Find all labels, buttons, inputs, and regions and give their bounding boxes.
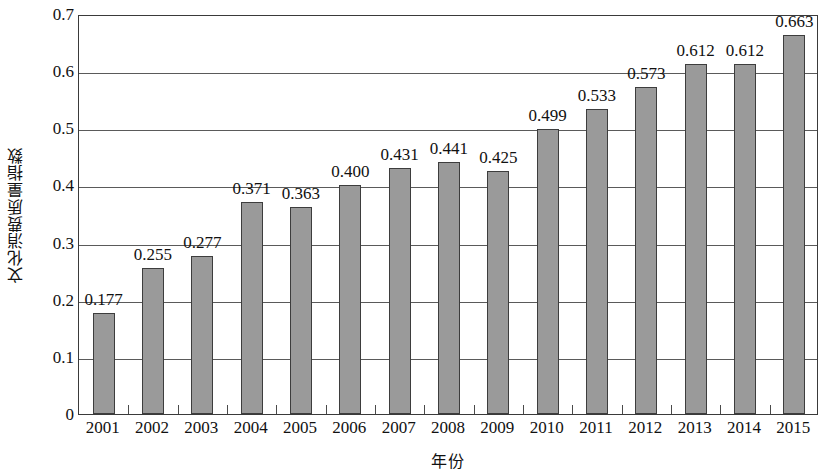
x-tick-label: 2003 [184,418,218,438]
bar [389,168,411,414]
x-tick-label: 2005 [283,418,317,438]
bar-value-label: 0.441 [430,139,468,159]
y-axis-tick-labels: 00.10.20.30.40.50.60.7 [28,0,74,475]
y-axis-title-text: 文化消费质量指数 [5,147,29,283]
bar-group: 0.573 [622,16,671,414]
bar-value-label: 0.663 [775,12,813,32]
bar-value-label: 0.371 [233,179,271,199]
bar [142,268,164,414]
x-axis-title: 年份 [78,448,818,472]
bar-group: 0.177 [79,16,128,414]
bar-group: 0.663 [770,16,819,414]
x-tick-label: 2013 [678,418,712,438]
bar-group: 0.431 [375,16,424,414]
bar-value-label: 0.431 [381,145,419,165]
x-tick-label: 2010 [530,418,564,438]
y-tick-label: 0.1 [32,348,74,368]
bar-value-label: 0.400 [331,162,369,182]
x-tick-label: 2008 [431,418,465,438]
y-tick-label: 0.3 [32,234,74,254]
bar [191,256,213,414]
bar [537,129,559,414]
bar-group: 0.425 [474,16,523,414]
bar-value-label: 0.425 [479,148,517,168]
y-tick-label: 0.5 [32,119,74,139]
bar [586,109,608,414]
y-tick-label: 0.7 [32,5,74,25]
bar [93,313,115,414]
bar-group: 0.612 [720,16,769,414]
bar-group: 0.371 [227,16,276,414]
bar-group: 0.277 [178,16,227,414]
y-tick-label: 0.6 [32,62,74,82]
bar [438,162,460,414]
bars-layer: 0.1770.2550.2770.3710.3630.4000.4310.441… [79,16,817,414]
x-tick-label: 2001 [86,418,120,438]
bar-group: 0.499 [523,16,572,414]
bar-group: 0.255 [128,16,177,414]
x-tick-label: 2007 [382,418,416,438]
x-axis-tick-labels: 2001200220032004200520062007200820092010… [78,418,818,444]
bar-value-label: 0.177 [85,290,123,310]
plot-area: 0.1770.2550.2770.3710.3630.4000.4310.441… [78,15,818,415]
bar-chart: 文化消费质量指数 00.10.20.30.40.50.60.7 0.1770.2… [0,0,821,475]
bar-value-label: 0.499 [529,106,567,126]
bar-value-label: 0.533 [578,86,616,106]
bar-value-label: 0.612 [726,41,764,61]
x-tick-label: 2004 [234,418,268,438]
bar-group: 0.400 [326,16,375,414]
bar-value-label: 0.612 [677,41,715,61]
x-tick-label: 2006 [332,418,366,438]
bar-group: 0.612 [671,16,720,414]
bar-group: 0.441 [424,16,473,414]
y-tick-label: 0.2 [32,291,74,311]
bar [290,207,312,414]
bar [339,185,361,414]
bar [783,35,805,414]
bar-value-label: 0.573 [627,64,665,84]
bar [241,202,263,414]
bar [685,64,707,414]
bar-value-label: 0.363 [282,184,320,204]
x-tick-label: 2012 [628,418,662,438]
y-tick-label: 0 [32,405,74,425]
bar-group: 0.363 [276,16,325,414]
x-tick-label: 2011 [579,418,612,438]
bar [734,64,756,414]
bar-value-label: 0.277 [183,233,221,253]
x-tick-label: 2009 [480,418,514,438]
bar [487,171,509,414]
bar [635,87,657,414]
x-tick-label: 2014 [727,418,761,438]
y-tick-label: 0.4 [32,176,74,196]
x-tick-label: 2015 [776,418,810,438]
bar-group: 0.533 [572,16,621,414]
bar-value-label: 0.255 [134,245,172,265]
x-tick-label: 2002 [135,418,169,438]
